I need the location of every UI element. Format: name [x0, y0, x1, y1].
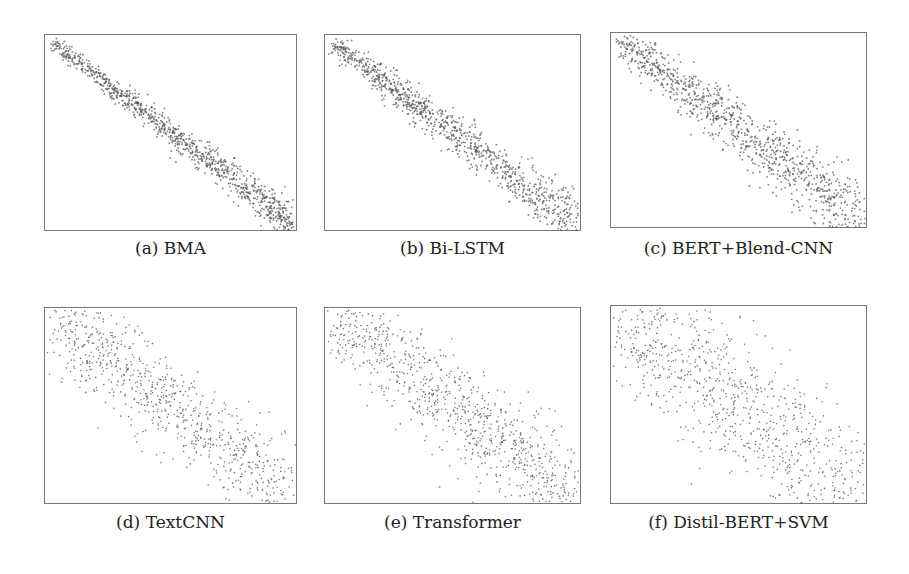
scatter-plot-b — [324, 34, 581, 231]
scatter-plot-c — [610, 32, 867, 228]
scatter-plot-a — [44, 34, 297, 231]
caption-a: (a) BMA — [24, 238, 317, 258]
scatter-plot-f — [610, 305, 867, 504]
scatter-points — [611, 306, 868, 505]
scatter-points — [325, 35, 582, 232]
caption-d: (d) TextCNN — [24, 512, 317, 532]
scatter-plot-e — [324, 307, 581, 504]
caption-c: (c) BERT+Blend-CNN — [590, 238, 887, 258]
scatter-plot-d — [44, 307, 297, 504]
caption-f: (f) Distil-BERT+SVM — [590, 512, 887, 532]
scatter-points — [611, 33, 868, 229]
scatter-points — [45, 308, 298, 505]
scatter-points — [325, 308, 582, 505]
scatter-points — [45, 35, 298, 232]
caption-e: (e) Transformer — [304, 512, 601, 532]
caption-b: (b) Bi-LSTM — [304, 238, 601, 258]
